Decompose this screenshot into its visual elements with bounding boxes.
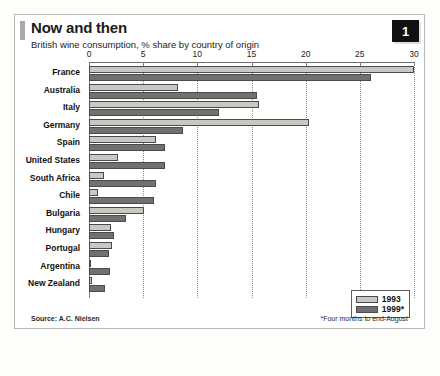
- category-label: Germany: [43, 120, 80, 130]
- x-tick-label: 20: [301, 49, 310, 59]
- gridline: [414, 63, 415, 298]
- category-label: Chile: [59, 190, 80, 200]
- bar-1999: [89, 215, 126, 222]
- category-label: Hungary: [46, 225, 80, 235]
- bar-1999: [89, 232, 114, 239]
- bar-row: Italy: [89, 101, 414, 118]
- bar-row: Spain: [89, 136, 414, 153]
- category-label: France: [52, 67, 80, 77]
- category-label: Argentina: [40, 261, 80, 271]
- category-label: New Zealand: [28, 278, 80, 288]
- chart-card: Now and then British wine consumption, %…: [14, 14, 425, 329]
- chart-legend: 1993 1999*: [351, 290, 410, 318]
- bar-1999: [89, 144, 165, 151]
- legend-swatch-1993: [356, 296, 378, 303]
- bar-row: Australia: [89, 84, 414, 101]
- bar-1993: [89, 189, 98, 196]
- plot-area: 051015202530 FranceAustraliaItalyGermany…: [89, 62, 414, 298]
- bar-row: United States: [89, 154, 414, 171]
- category-label: Bulgaria: [46, 208, 80, 218]
- bar-row: Argentina: [89, 260, 414, 277]
- bar-1993: [89, 154, 118, 161]
- bar-1999: [89, 268, 110, 275]
- page-background: Now and then British wine consumption, %…: [0, 0, 440, 376]
- bar-1993: [89, 242, 112, 249]
- bar-row: Bulgaria: [89, 207, 414, 224]
- legend-label-1999: 1999*: [382, 304, 404, 314]
- bar-row: Chile: [89, 189, 414, 206]
- bar-1993: [89, 119, 309, 126]
- page-title: Now and then: [31, 19, 127, 36]
- bar-row: Portugal: [89, 242, 414, 259]
- legend-item-1999: 1999*: [356, 304, 404, 314]
- bar-1999: [89, 127, 183, 134]
- category-label: South Africa: [30, 173, 80, 183]
- bar-row: South Africa: [89, 172, 414, 189]
- bar-1999: [89, 162, 165, 169]
- x-tick-label: 0: [87, 49, 92, 59]
- x-tick-label: 30: [409, 49, 418, 59]
- bar-1993: [89, 277, 92, 284]
- category-label: Italy: [63, 102, 80, 112]
- x-tick-label: 15: [247, 49, 256, 59]
- bar-row: Hungary: [89, 224, 414, 241]
- bar-1993: [89, 207, 144, 214]
- bar-1993: [89, 224, 111, 231]
- bar-1993: [89, 84, 178, 91]
- category-label: Spain: [57, 137, 80, 147]
- category-label: Australia: [44, 85, 80, 95]
- x-tick-label: 10: [193, 49, 202, 59]
- x-tick-label: 5: [141, 49, 146, 59]
- bar-1999: [89, 92, 257, 99]
- bar-1993: [89, 172, 104, 179]
- legend-item-1993: 1993: [356, 294, 404, 304]
- bar-1999: [89, 74, 371, 81]
- x-tick-label: 25: [355, 49, 364, 59]
- bar-1993: [89, 101, 259, 108]
- category-label: Portugal: [46, 243, 80, 253]
- legend-swatch-1999: [356, 306, 378, 313]
- bar-1993: [89, 66, 414, 73]
- bar-1993: [89, 260, 91, 267]
- chart-number-badge: 1: [392, 20, 419, 42]
- bar-1999: [89, 197, 154, 204]
- bar-1999: [89, 180, 156, 187]
- bar-1999: [89, 285, 105, 292]
- legend-label-1993: 1993: [382, 294, 401, 304]
- bar-1999: [89, 109, 219, 116]
- chart-source: Source: A.C. Nielsen: [31, 315, 100, 322]
- bar-1999: [89, 250, 109, 257]
- chart-footnote: *Four months to end-August: [320, 315, 408, 322]
- title-accent-bar: [20, 21, 25, 40]
- bar-row: Germany: [89, 119, 414, 136]
- bar-row: France: [89, 66, 414, 83]
- category-label: United States: [26, 155, 80, 165]
- bar-1993: [89, 136, 156, 143]
